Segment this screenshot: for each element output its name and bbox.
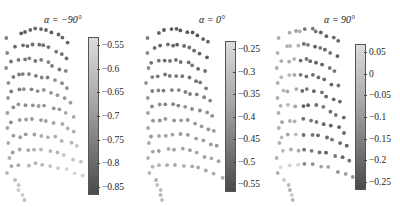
- data-point: [314, 103, 318, 107]
- data-point: [288, 119, 292, 123]
- data-point: [325, 34, 329, 38]
- data-point: [315, 120, 319, 124]
- data-point: [320, 63, 324, 67]
- data-point: [324, 95, 328, 99]
- data-point: [336, 54, 340, 58]
- data-point: [280, 136, 284, 140]
- data-point: [294, 29, 298, 33]
- data-point: [316, 133, 320, 137]
- data-point: [294, 133, 298, 137]
- data-point: [279, 165, 283, 169]
- data-point: [336, 170, 340, 174]
- data-point: [311, 73, 315, 77]
- data-point: [279, 75, 283, 79]
- data-point: [318, 151, 322, 155]
- data-point: [282, 89, 286, 93]
- data-point: [280, 120, 284, 124]
- data-point: [326, 165, 330, 169]
- data-point: [332, 36, 336, 40]
- data-point: [293, 105, 297, 109]
- data-point: [309, 119, 313, 123]
- data-point: [334, 113, 338, 117]
- data-point: [347, 159, 351, 163]
- data-point: [310, 149, 314, 153]
- data-point: [313, 45, 317, 49]
- data-point: [289, 148, 293, 152]
- data-point: [324, 151, 328, 155]
- colorbar-tick-label: −0.1: [369, 112, 386, 122]
- colorbar-tick-label: −0.2: [369, 155, 386, 165]
- data-point: [299, 73, 303, 77]
- data-point: [293, 120, 297, 124]
- data-point: [305, 87, 309, 91]
- data-point: [338, 100, 342, 104]
- data-point: [330, 83, 334, 87]
- data-point: [317, 76, 321, 80]
- data-point: [296, 163, 300, 167]
- data-point: [279, 104, 283, 108]
- data-point: [288, 31, 292, 35]
- data-point: [287, 73, 291, 77]
- data-point: [311, 162, 315, 166]
- data-point: [342, 131, 346, 135]
- data-point: [293, 73, 297, 77]
- data-point: [305, 57, 309, 61]
- data-point: [333, 69, 337, 73]
- data-point: [323, 48, 327, 52]
- colorbar-tick-label: 0: [369, 69, 374, 79]
- colorbar-tick-label: −0.15: [369, 134, 391, 144]
- data-point: [299, 59, 303, 63]
- data-point: [321, 105, 325, 109]
- data-point: [311, 27, 315, 31]
- data-point: [303, 27, 307, 31]
- data-point: [345, 144, 349, 148]
- data-point: [288, 163, 292, 167]
- data-point: [306, 43, 310, 47]
- data-point: [297, 149, 301, 153]
- data-point: [302, 42, 306, 46]
- data-point: [341, 155, 345, 159]
- data-point: [294, 87, 298, 91]
- data-point: [296, 44, 300, 48]
- scatter-plot: [0, 0, 400, 207]
- data-point: [329, 124, 333, 128]
- colorbar-tick-label: 0.05: [369, 47, 386, 57]
- data-point: [332, 97, 336, 101]
- data-point: [329, 110, 333, 114]
- data-point: [298, 29, 302, 33]
- data-point: [286, 90, 290, 94]
- data-point: [338, 141, 342, 145]
- data-point: [286, 133, 290, 137]
- data-point: [281, 149, 285, 153]
- data-point: [292, 57, 296, 61]
- data-point: [302, 104, 306, 108]
- data-point: [288, 44, 292, 48]
- data-point: [279, 59, 283, 63]
- data-point: [306, 103, 310, 107]
- data-point: [322, 122, 326, 126]
- data-point: [312, 89, 316, 93]
- data-point: [314, 30, 318, 34]
- data-point: [320, 90, 324, 94]
- data-point: [300, 89, 304, 93]
- data-point: [330, 138, 334, 142]
- data-point: [344, 172, 348, 176]
- colorbar-tick-label: −0.25: [369, 177, 391, 187]
- data-point: [318, 46, 322, 50]
- data-point: [303, 162, 307, 166]
- colorbar-tick-label: −0.05: [369, 90, 391, 100]
- data-point: [328, 51, 332, 55]
- data-point: [336, 39, 340, 43]
- data-point: [342, 116, 346, 120]
- data-point: [319, 31, 323, 35]
- data-point: [325, 136, 329, 140]
- data-point: [328, 66, 332, 70]
- data-point: [301, 117, 305, 121]
- data-point: [337, 84, 341, 88]
- data-point: [319, 165, 323, 169]
- data-point: [286, 103, 290, 107]
- data-point: [302, 133, 306, 137]
- data-point: [302, 148, 306, 152]
- data-point: [333, 154, 337, 158]
- data-point: [287, 60, 291, 64]
